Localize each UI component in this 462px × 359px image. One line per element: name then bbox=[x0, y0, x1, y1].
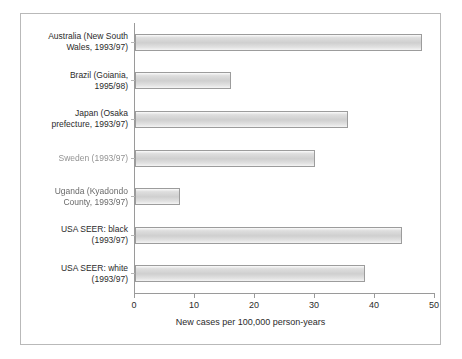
category-tick bbox=[131, 235, 135, 236]
bar-uganda[interactable] bbox=[135, 188, 180, 205]
x-axis-tick bbox=[314, 294, 315, 298]
category-label-usa-seer-white: USA SEER: white (1993/97) bbox=[21, 254, 134, 293]
x-axis-tick-label: 50 bbox=[419, 300, 449, 310]
x-axis-tick bbox=[134, 294, 135, 298]
x-axis-tick-label: 0 bbox=[119, 300, 149, 310]
x-axis-tick-label: 20 bbox=[239, 300, 269, 310]
category-tick bbox=[131, 196, 135, 197]
x-axis-tick bbox=[374, 294, 375, 298]
x-axis-tick-label: 40 bbox=[359, 300, 389, 310]
bar-sweden[interactable] bbox=[135, 150, 315, 167]
bar-australia[interactable] bbox=[135, 34, 422, 51]
plot-area bbox=[134, 23, 435, 293]
bar-row bbox=[135, 62, 435, 101]
x-axis-tick-label: 30 bbox=[299, 300, 329, 310]
category-label-sweden: Sweden (1993/97) bbox=[21, 139, 134, 178]
bar-row bbox=[135, 23, 435, 62]
category-tick bbox=[131, 273, 135, 274]
x-axis-title: New cases per 100,000 person-years bbox=[21, 317, 442, 327]
x-axis-tick bbox=[254, 294, 255, 298]
bar-row bbox=[135, 216, 435, 255]
category-tick bbox=[131, 158, 135, 159]
bar-japan[interactable] bbox=[135, 111, 348, 128]
x-axis-line bbox=[134, 293, 435, 294]
x-axis-title-text: New cases per 100,000 person-years bbox=[176, 317, 326, 327]
bar-series bbox=[135, 23, 435, 293]
category-label-usa-seer-black: USA SEER: black (1993/97) bbox=[21, 216, 134, 255]
category-tick bbox=[131, 119, 135, 120]
bar-row bbox=[135, 177, 435, 216]
x-axis-tick bbox=[434, 294, 435, 298]
category-tick bbox=[131, 42, 135, 43]
category-label-uganda: Uganda (Kyadondo County, 1993/97) bbox=[21, 177, 134, 216]
category-label-australia: Australia (New South Wales, 1993/97) bbox=[21, 23, 134, 62]
x-axis-tick bbox=[194, 294, 195, 298]
bar-usa-seer-white[interactable] bbox=[135, 265, 365, 282]
category-tick bbox=[131, 80, 135, 81]
bar-brazil[interactable] bbox=[135, 72, 231, 89]
bar-row bbox=[135, 139, 435, 178]
bar-usa-seer-black[interactable] bbox=[135, 227, 402, 244]
bar-row bbox=[135, 254, 435, 293]
category-label-japan: Japan (Osaka prefecture, 1993/97) bbox=[21, 100, 134, 139]
category-label-brazil: Brazil (Goiania, 1995/98) bbox=[21, 62, 134, 101]
category-axis: Australia (New South Wales, 1993/97) Bra… bbox=[21, 23, 134, 293]
x-axis-tick-label: 10 bbox=[179, 300, 209, 310]
bar-row bbox=[135, 100, 435, 139]
chart-figure: Australia (New South Wales, 1993/97) Bra… bbox=[20, 13, 441, 345]
